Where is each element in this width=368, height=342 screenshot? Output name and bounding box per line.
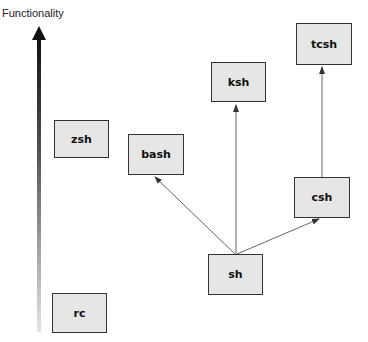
edge-sh-bash xyxy=(155,177,235,254)
edge-sh-csh xyxy=(237,219,319,254)
node-zsh: zsh xyxy=(54,120,109,158)
node-tcsh: tcsh xyxy=(296,23,352,65)
node-rc: rc xyxy=(52,293,107,333)
node-bash: bash xyxy=(128,134,184,175)
node-sh: sh xyxy=(208,254,263,295)
node-ksh: ksh xyxy=(211,62,266,102)
node-csh: csh xyxy=(294,177,350,218)
